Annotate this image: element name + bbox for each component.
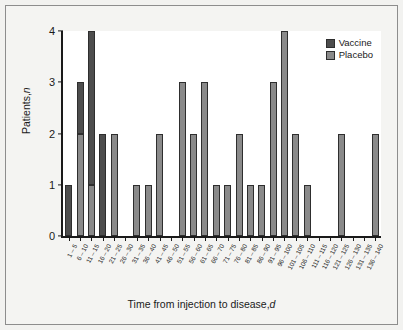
x-axis-title: Time from injection to disease,d [6, 298, 397, 310]
bar-group [338, 134, 345, 237]
x-axis-tick [262, 236, 263, 241]
x-axis-tick [319, 236, 320, 241]
y-axis-tick [58, 133, 63, 134]
bar-group [281, 31, 288, 236]
bar-segment-placebo [281, 31, 288, 236]
bar-segment-placebo [213, 185, 220, 236]
x-axis-title-text: Time from injection to disease, [128, 298, 270, 310]
figure-frame: Patients,n 01234 1 – 56 – 1011 – 1516 – … [5, 5, 398, 325]
figure-container: Patients,n 01234 1 – 56 – 1011 – 1516 – … [0, 0, 403, 330]
x-axis-tick [171, 236, 172, 241]
x-axis-tick [205, 236, 206, 241]
legend-swatch-icon [326, 39, 335, 48]
y-axis-title-italic: n [20, 87, 32, 93]
bar-group [99, 134, 106, 237]
bar-segment-placebo [270, 82, 277, 236]
bar-segment-vaccine [65, 185, 72, 236]
legend-swatch-icon [326, 51, 335, 60]
bar-group [304, 185, 311, 236]
x-axis-tick [194, 236, 195, 241]
bar-group [258, 185, 265, 236]
y-axis-tick-label: 0 [49, 230, 55, 242]
chart-legend: VaccinePlacebo [324, 36, 375, 62]
bar-segment-vaccine [88, 31, 95, 185]
x-axis-tick [103, 236, 104, 241]
y-axis-tick [58, 30, 63, 31]
y-axis-title: Patients,n [20, 87, 32, 134]
x-axis-title-italic: d [270, 298, 276, 310]
bar-group [372, 134, 379, 237]
x-axis-tick [182, 236, 183, 241]
bar-segment-placebo [145, 185, 152, 236]
x-axis-tick [375, 236, 376, 241]
y-axis-title-text: Patients, [20, 93, 32, 134]
x-axis-tick [250, 236, 251, 241]
y-axis-tick-label: 2 [49, 128, 55, 140]
bar-segment-placebo [292, 134, 299, 237]
legend-item-vaccine: Vaccine [326, 37, 373, 49]
x-axis-tick [160, 236, 161, 241]
y-axis-tick [58, 235, 63, 236]
bar-group [201, 82, 208, 236]
bar-group [133, 185, 140, 236]
bar-segment-placebo [247, 185, 254, 236]
bar-group [88, 31, 95, 236]
bar-group [236, 134, 243, 237]
x-axis-tick [228, 236, 229, 241]
bar-group [190, 134, 197, 237]
bar-segment-placebo [236, 134, 243, 237]
bar-segment-vaccine [77, 82, 84, 133]
bar-group [65, 185, 72, 236]
bar-segment-placebo [201, 82, 208, 236]
bar-segment-placebo [88, 185, 95, 236]
y-axis-tick-label: 3 [49, 76, 55, 88]
x-axis-tick [284, 236, 285, 241]
bar-segment-placebo [224, 185, 231, 236]
x-axis-tick [137, 236, 138, 241]
bar-segment-placebo [338, 134, 345, 237]
x-axis-tick [341, 236, 342, 241]
bar-segment-placebo [156, 134, 163, 237]
legend-label: Vaccine [339, 38, 372, 48]
x-axis-tick [69, 236, 70, 241]
x-axis-tick [307, 236, 308, 241]
x-axis-tick [216, 236, 217, 241]
x-axis-tick [148, 236, 149, 241]
x-axis-tick [353, 236, 354, 241]
x-axis-tick [364, 236, 365, 241]
bar-segment-placebo [77, 134, 84, 237]
bar-segment-placebo [133, 185, 140, 236]
x-axis-tick [114, 236, 115, 241]
x-axis-tick [239, 236, 240, 241]
x-axis-tick [330, 236, 331, 241]
bar-group [292, 134, 299, 237]
bar-group [111, 134, 118, 237]
bar-group [270, 82, 277, 236]
bar-segment-placebo [304, 185, 311, 236]
y-axis-tick-label: 1 [49, 179, 55, 191]
x-axis-tick [80, 236, 81, 241]
plot-panel: 01234 1 – 56 – 1011 – 1516 – 2021 – 2526… [61, 31, 381, 238]
legend-label: Placebo [339, 50, 373, 60]
bar-group [179, 82, 186, 236]
x-axis-tick [273, 236, 274, 241]
bar-group [145, 185, 152, 236]
bar-segment-placebo [111, 134, 118, 237]
y-axis-tick-label: 4 [49, 25, 55, 37]
legend-item-placebo: Placebo [326, 49, 373, 61]
y-axis-tick [58, 82, 63, 83]
x-axis-tick [91, 236, 92, 241]
bar-group [156, 134, 163, 237]
bar-group [224, 185, 231, 236]
x-axis-tick [125, 236, 126, 241]
x-axis-tick [296, 236, 297, 241]
bar-segment-placebo [372, 134, 379, 237]
bar-group [247, 185, 254, 236]
bar-segment-vaccine [99, 134, 106, 237]
bar-segment-placebo [190, 134, 197, 237]
y-axis-tick [58, 184, 63, 185]
bar-segment-placebo [258, 185, 265, 236]
bar-group [213, 185, 220, 236]
bar-group [77, 82, 84, 236]
bar-segment-placebo [179, 82, 186, 236]
